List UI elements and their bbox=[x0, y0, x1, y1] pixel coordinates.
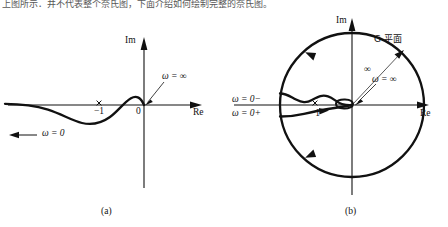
nyquist-diagram-b bbox=[224, 10, 448, 227]
circle-direction-arrow-top-b bbox=[305, 48, 318, 62]
figure-panel-a: Im Re −1 0 ω = ∞ ω = 0 (a) bbox=[0, 10, 224, 227]
omega-infinity-pointer-b bbox=[355, 84, 376, 105]
axis-label-re-a: Re bbox=[193, 107, 204, 117]
circle-direction-arrow-bottom-b bbox=[305, 148, 318, 162]
axis-label-im-a: Im bbox=[125, 35, 136, 45]
axis-label-im-b: Im bbox=[336, 15, 347, 25]
nyquist-diagram-a bbox=[0, 10, 224, 227]
omega-infinity-label-a: ω = ∞ bbox=[162, 71, 187, 81]
axis-label-re-b: Re bbox=[420, 108, 431, 118]
origin-label-a: 0 bbox=[136, 106, 141, 116]
body-text-line: 上图所示．并不代表整个奈氏图，下面介绍如何绘制完整的奈氏图。 bbox=[2, 0, 322, 10]
infinite-radius-label-b: ∞ bbox=[364, 64, 371, 74]
omega-zero-pointer-a bbox=[9, 132, 37, 138]
omega-zero-label-a: ω = 0 bbox=[42, 128, 65, 138]
omega-infinity-label-b: ω = ∞ bbox=[372, 74, 397, 84]
nyquist-curve-a bbox=[5, 97, 144, 124]
panel-caption-a: (a) bbox=[101, 206, 112, 216]
omega-infinity-pointer-a bbox=[145, 82, 164, 106]
figure-root: 上图所示．并不代表整个奈氏图，下面介绍如何绘制完整的奈氏图。 bbox=[0, 0, 448, 227]
omega-zero-plus-label-b: ω = 0+ bbox=[232, 108, 261, 118]
panel-caption-b: (b) bbox=[345, 206, 356, 216]
omega-zero-minus-label-b: ω = 0− bbox=[232, 94, 261, 104]
imaginary-axis-a bbox=[141, 37, 148, 188]
critical-point-label-b: −1 bbox=[310, 108, 320, 118]
plane-label-b: G 平面 bbox=[374, 32, 402, 45]
figure-panel-b: Im Re G 平面 ω = 0− ω = 0+ ω = ∞ ∞ −1 (b) bbox=[224, 10, 448, 227]
critical-point-label-a: −1 bbox=[94, 106, 104, 116]
